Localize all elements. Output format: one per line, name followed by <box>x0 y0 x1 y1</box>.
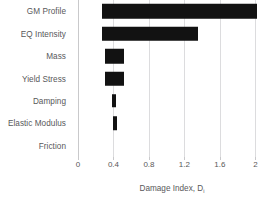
x-tick-label-0: 0 <box>76 160 80 169</box>
gridline-0.8 <box>149 0 150 157</box>
y-label-gm-profile: GM Profile <box>0 7 66 16</box>
bar-mass <box>105 49 125 64</box>
y-label-yield-stress: Yield Stress <box>0 74 66 83</box>
gridline-1.6 <box>220 0 221 157</box>
bar-yield-stress <box>105 71 125 86</box>
x-tick-label-0.8: 0.8 <box>143 160 154 169</box>
x-tick-label-0.4: 0.4 <box>108 160 119 169</box>
y-label-damping: Damping <box>0 96 66 105</box>
x-axis-ticks: 00.40.81.21.62 <box>78 157 266 171</box>
x-tick-label-1.2: 1.2 <box>179 160 190 169</box>
gridline-1.2 <box>184 0 185 157</box>
y-label-friction: Friction <box>0 141 66 150</box>
bar-gm-profile <box>102 4 257 19</box>
x-axis-title-text: Damage Index, D <box>140 184 204 193</box>
x-tick-label-1.6: 1.6 <box>214 160 225 169</box>
x-tick-label-2: 2 <box>253 160 257 169</box>
y-axis-spine <box>78 0 79 157</box>
y-axis-category-labels: GM ProfileEQ IntensityMassYield StressDa… <box>0 0 72 157</box>
x-axis-title-subscript: i <box>203 188 204 194</box>
bar-eq-intensity <box>102 26 198 41</box>
bar-damping <box>112 94 116 108</box>
plot-area <box>78 0 266 157</box>
bar-elastic-modulus <box>113 117 117 131</box>
damage-index-bar-chart: GM ProfileEQ IntensityMassYield StressDa… <box>0 0 277 204</box>
y-label-mass: Mass <box>0 52 66 61</box>
y-label-eq-intensity: EQ Intensity <box>0 29 66 38</box>
gridline-2 <box>255 0 256 157</box>
x-axis-title: Damage Index, Di <box>78 184 266 193</box>
y-label-elastic-modulus: Elastic Modulus <box>0 119 66 128</box>
